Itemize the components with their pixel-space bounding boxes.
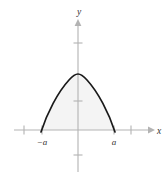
figure-container: −a a x y: [0, 0, 168, 179]
y-axis-arrow: [75, 19, 82, 26]
tick-label-left-root: −a: [37, 137, 48, 147]
y-axis-label: y: [76, 7, 82, 17]
x-axis-label: x: [156, 126, 162, 136]
x-axis-arrow: [148, 127, 155, 134]
parabola-diagram: −a a x y: [0, 0, 168, 179]
tick-label-right-root: a: [112, 137, 117, 147]
